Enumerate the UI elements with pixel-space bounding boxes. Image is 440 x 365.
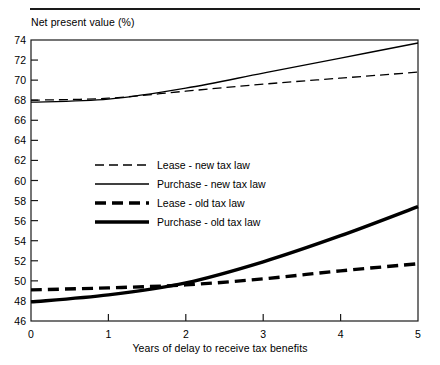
x-tick-label: 1 — [96, 329, 120, 340]
y-tick-label: 56 — [2, 216, 26, 227]
series-line-3 — [31, 264, 418, 290]
y-tick-label: 70 — [2, 75, 26, 86]
legend-label: Purchase - new tax law — [157, 178, 266, 190]
y-tick-label: 66 — [2, 115, 26, 126]
series-line-1 — [31, 72, 418, 100]
y-tick-label: 60 — [2, 176, 26, 187]
y-tick-label: 58 — [2, 196, 26, 207]
chart-figure: Net present value (%) 464850525456586062… — [0, 0, 440, 365]
y-tick-label: 48 — [2, 296, 26, 307]
x-tick-label: 5 — [406, 329, 430, 340]
y-tick-label: 72 — [2, 55, 26, 66]
y-tick-label: 52 — [2, 256, 26, 267]
legend-swatch — [95, 158, 149, 172]
x-tick-label: 4 — [329, 329, 353, 340]
legend-label: Lease - new tax law — [157, 159, 250, 171]
legend-swatch — [95, 215, 149, 229]
legend-label: Purchase - old tax law — [157, 216, 260, 228]
x-tick-label: 2 — [174, 329, 198, 340]
y-tick-label: 68 — [2, 95, 26, 106]
legend-swatch — [95, 177, 149, 191]
y-tick-label: 46 — [2, 316, 26, 327]
y-tick-label: 50 — [2, 276, 26, 287]
y-tick-label: 74 — [2, 35, 26, 46]
x-tick-label: 3 — [251, 329, 275, 340]
y-tick-label: 62 — [2, 155, 26, 166]
series-line-2 — [31, 43, 418, 102]
x-axis-title: Years of delay to receive tax benefits — [0, 342, 440, 354]
legend-label: Lease - old tax law — [157, 197, 245, 209]
x-tick-label: 0 — [19, 329, 43, 340]
y-tick-label: 64 — [2, 135, 26, 146]
legend-swatch — [95, 196, 149, 210]
y-tick-label: 54 — [2, 236, 26, 247]
